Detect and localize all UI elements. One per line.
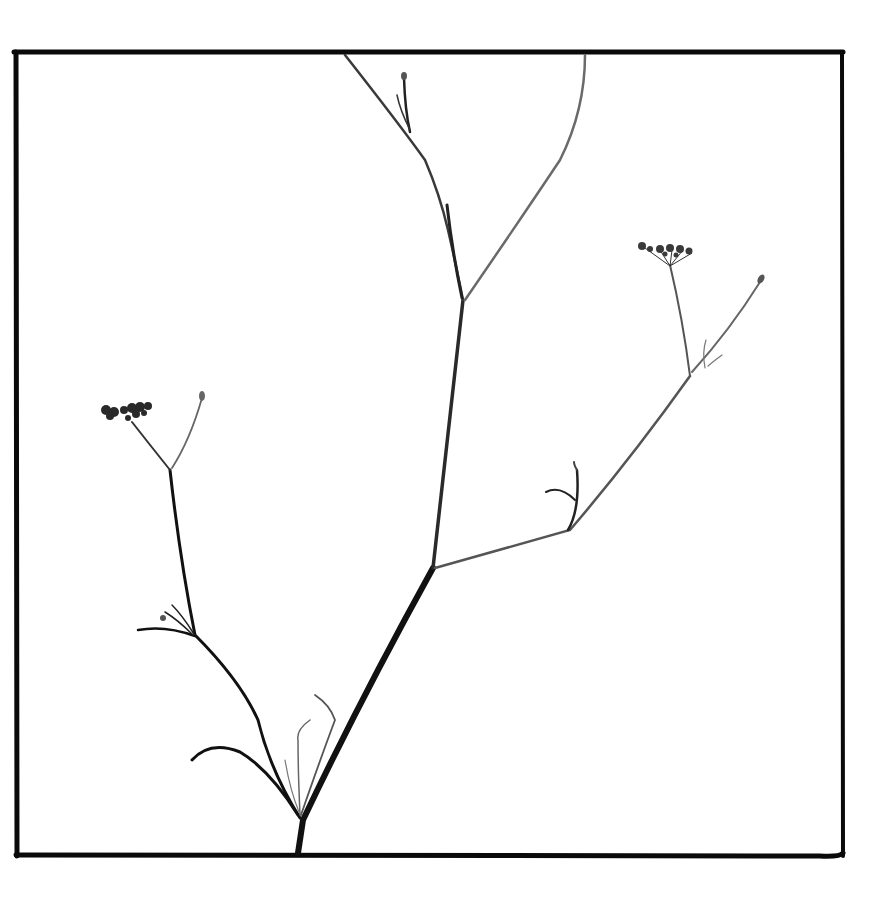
- plant-photograph: [0, 0, 886, 897]
- photo-background: [0, 0, 886, 897]
